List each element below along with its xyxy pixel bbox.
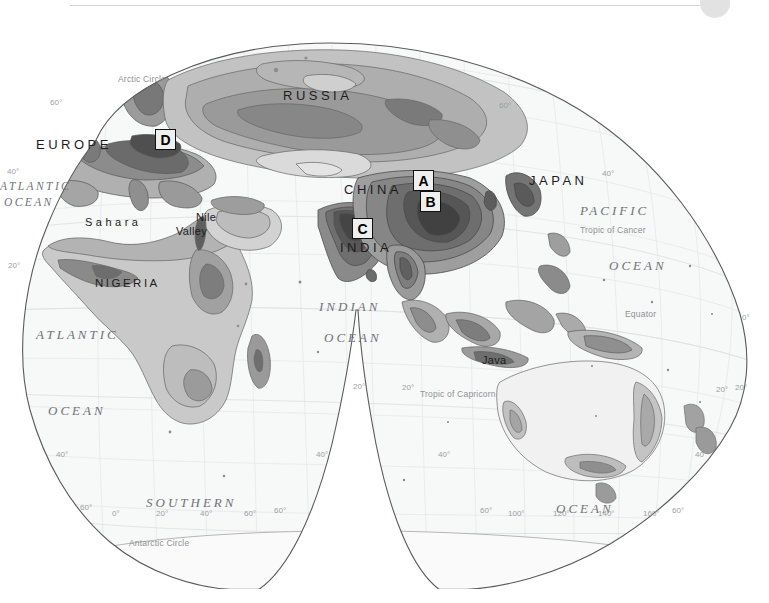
world-map-plate[interactable] [0,14,769,589]
map-marker-c[interactable]: C [352,218,373,239]
world-map-graphic [0,14,769,589]
header-divider-rule [70,5,710,6]
map-figure-page: RUSSIAEUROPECHINAJAPANINDIANIGERIASahara… [0,0,769,603]
map-marker-d[interactable]: D [155,129,176,150]
map-marker-b[interactable]: B [420,191,441,212]
map-marker-a[interactable]: A [413,170,434,191]
